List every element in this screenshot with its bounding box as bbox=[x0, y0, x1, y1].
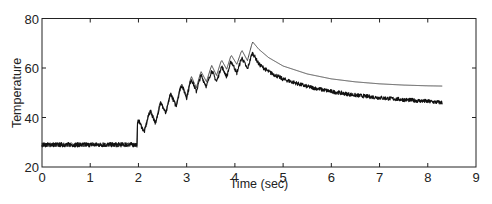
y-tick-label: 40 bbox=[25, 111, 39, 126]
y-tick-label: 20 bbox=[25, 160, 39, 175]
y-tick-label: 80 bbox=[25, 12, 39, 27]
measured-temperature-line bbox=[42, 52, 442, 147]
x-tick-label: 6 bbox=[328, 170, 335, 185]
x-tick-label: 8 bbox=[424, 170, 431, 185]
x-tick-label: 0 bbox=[38, 170, 45, 185]
y-axis-label: Temperature bbox=[10, 58, 24, 128]
x-tick-label: 2 bbox=[135, 170, 142, 185]
x-axis-label: Time (sec) bbox=[230, 177, 289, 191]
temperature-time-chart: 0123456789 20406080 Time (sec) Temperatu… bbox=[0, 0, 492, 204]
x-tick-label: 3 bbox=[183, 170, 190, 185]
series-layer bbox=[42, 42, 442, 147]
x-tick-label: 7 bbox=[376, 170, 383, 185]
x-tick-label: 1 bbox=[87, 170, 94, 185]
y-tick-label: 60 bbox=[25, 61, 39, 76]
y-tick-labels: 20406080 bbox=[25, 12, 39, 176]
x-tick-label: 9 bbox=[472, 170, 479, 185]
